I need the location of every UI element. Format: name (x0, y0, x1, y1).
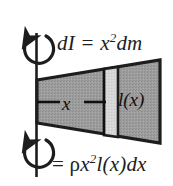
bottom-rotation-arrow-icon (25, 140, 54, 167)
top-rotation-arrow-icon (25, 36, 54, 63)
equation-bottom-variable: x (80, 152, 90, 176)
moment-of-inertia-figure: dI = x2dm = ρx2l(x)dx x l(x) (0, 0, 173, 186)
equation-bottom: = ρx2l(x)dx (52, 152, 147, 175)
equation-bottom-tail: l(x)dx (96, 152, 146, 176)
equation-top-tail: dm (116, 31, 142, 55)
equation-top-lead: dI = x (57, 31, 110, 55)
equation-bottom-rho: ρ (70, 152, 81, 176)
equation-top: dI = x2dm (57, 31, 142, 54)
equation-bottom-equals: = (52, 152, 70, 176)
label-distance-x: x (62, 93, 70, 115)
label-length-function: l(x) (118, 89, 144, 111)
slice-outline (104, 67, 118, 137)
differential-slice-dx (104, 67, 118, 137)
